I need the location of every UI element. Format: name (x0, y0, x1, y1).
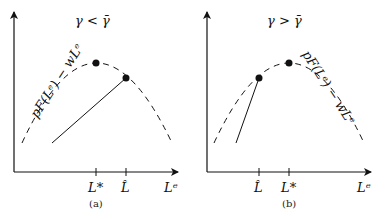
optimum-dot-b (286, 60, 293, 67)
panel-b-title: γ > γ̄ (267, 14, 302, 27)
caption-a: (a) (89, 199, 103, 209)
optimum-dot-a (93, 60, 100, 67)
path-line-a (52, 78, 126, 143)
diagram-canvas (0, 0, 387, 219)
lhat-dot-a (123, 75, 130, 82)
tick-label-lstar-a: L* (88, 181, 103, 194)
lhat-dot-b (256, 75, 263, 82)
tick-label-lhat-b: L̂ (254, 181, 263, 194)
caption-b: (b) (282, 199, 296, 209)
panel-b (207, 12, 371, 176)
tick-label-lhat-a: L̂ (121, 181, 130, 194)
x-axis-label-b: Lᵉ (357, 181, 371, 194)
panel-a-title: γ < γ̄ (75, 14, 110, 27)
path-line-b (236, 78, 259, 143)
tick-label-lstar-b: L* (281, 181, 296, 194)
x-axis-label-a: Lᵉ (164, 181, 178, 194)
